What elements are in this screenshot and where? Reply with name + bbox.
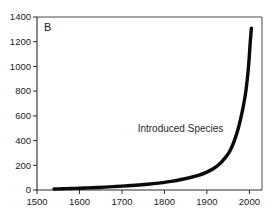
y-tick-label-0: 0: [26, 184, 31, 195]
series-annotation-label: Introduced Species: [138, 123, 224, 134]
x-tick-label-1900: 1900: [196, 196, 217, 207]
figure-panel-b: 0 200 400 600 800 1000 1200 1400 1500 16…: [0, 0, 278, 214]
y-tick-label-200: 200: [15, 160, 31, 171]
x-tick-label-1700: 1700: [111, 196, 132, 207]
x-tick-label-1500: 1500: [26, 196, 47, 207]
y-tick-label-400: 400: [15, 135, 31, 146]
x-tick-label-1800: 1800: [154, 196, 175, 207]
y-tick-label-800: 800: [15, 85, 31, 96]
chart-background: [0, 0, 278, 214]
introduced-species-chart: 0 200 400 600 800 1000 1200 1400 1500 16…: [0, 0, 278, 214]
y-tick-label-1000: 1000: [10, 61, 31, 72]
y-tick-label-600: 600: [15, 110, 31, 121]
y-tick-label-1200: 1200: [10, 36, 31, 47]
panel-label: B: [44, 21, 51, 33]
x-tick-label-2000: 2000: [239, 196, 260, 207]
y-tick-label-1400: 1400: [10, 11, 31, 22]
x-tick-label-1600: 1600: [69, 196, 90, 207]
